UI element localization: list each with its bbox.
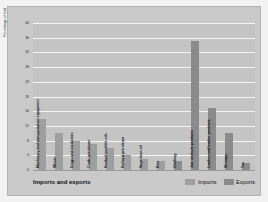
bar-group: Machinery and transportation equipmentWh… [33, 23, 255, 170]
legend-item[interactable]: Imports [185, 179, 216, 185]
bar-slot: Rice [153, 23, 170, 170]
y-axis-tick-label: 16 [25, 109, 29, 113]
y-axis-tick-label: 4 [27, 153, 29, 157]
legend-swatch [224, 179, 234, 185]
bar-slot: Clothing [170, 23, 187, 170]
plot-area: Machinery and transportation equipmentWh… [33, 23, 255, 170]
y-axis-tick-label: 28 [25, 65, 29, 69]
bar-category-label: Shrimps [224, 154, 228, 168]
bar-slot: Crude petroleum [84, 23, 101, 170]
y-axis-tick-label: 36 [25, 36, 29, 40]
bar-slot: Jute and jute products [187, 23, 204, 170]
chart-frame: 0481216202428323640 Percentage of total … [7, 6, 261, 196]
bar-slot: Shrimps [221, 23, 238, 170]
y-axis-tick-label: 0 [27, 168, 29, 172]
bar-slot: Soya bean oil [135, 23, 152, 170]
chart-figure: 0481216202428323640 Percentage of total … [0, 0, 268, 202]
bar-category-label: Machinery and transportation equipment [36, 99, 40, 168]
bar-category-label: Crude petroleum [87, 140, 91, 168]
y-axis-tick-label: 12 [25, 124, 29, 128]
bar-slot: Tea [238, 23, 255, 170]
bar-category-label: Jute and jute products [190, 130, 194, 168]
bar-slot: Machinery and transportation equipment [33, 23, 50, 170]
bar-category-label: Nonfuel inedible oils [104, 133, 108, 168]
bar-category-label: Soya bean oil [139, 145, 143, 168]
bar-category-label: Leather and leather products [207, 119, 211, 168]
x-axis-title: Imports and exports [33, 179, 91, 185]
bar-category-label: Refined petroleum [121, 137, 125, 168]
chart-footer: Imports and exports ImportsExports [33, 173, 255, 191]
y-axis-tick-label: 20 [25, 95, 29, 99]
legend-label: Imports [198, 179, 217, 185]
bar-slot: Drugs and medicines [67, 23, 84, 170]
bar-category-label: Rice [156, 161, 160, 168]
bar-slot: Wheat [50, 23, 67, 170]
bar-slot: Refined petroleum [118, 23, 135, 170]
bar-category-label: Wheat [53, 157, 57, 168]
y-axis-tick-label: 8 [27, 139, 29, 143]
legend-item[interactable]: Exports [224, 179, 255, 185]
gridline [33, 170, 255, 171]
y-axis-tick-label: 40 [25, 21, 29, 25]
bar-slot: Nonfuel inedible oils [101, 23, 118, 170]
bar-category-label: Tea [241, 162, 245, 168]
y-axis-tick-label: 24 [25, 80, 29, 84]
bar-category-label: Drugs and medicines [70, 132, 74, 168]
legend-label: Exports [236, 179, 255, 185]
legend-swatch [185, 179, 195, 185]
bar-category-label: Clothing [173, 154, 177, 168]
y-axis-tick-label: 32 [25, 50, 29, 54]
y-axis-title: Percentage of total [3, 0, 7, 37]
chart-legend: ImportsExports [185, 179, 255, 185]
y-axis-tick-labels: 0481216202428323640 [8, 23, 32, 170]
bar-slot: Leather and leather products [204, 23, 221, 170]
